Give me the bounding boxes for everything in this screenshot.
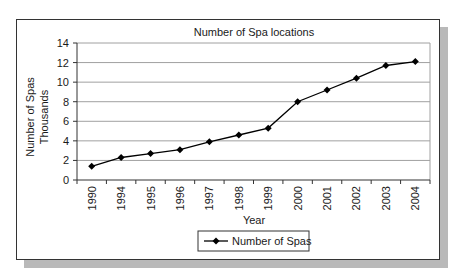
data-point-marker [235,131,242,138]
axes [77,43,430,180]
data-point-marker [324,86,331,93]
legend: Number of Spas [198,231,312,251]
data-point-marker [88,163,95,170]
data-point-marker [353,75,360,82]
chart-title: Number of Spa locations [194,26,315,38]
y-tick-label: 2 [63,154,69,166]
y-tick-label: 10 [57,76,69,88]
x-tick-label: 2003 [380,186,392,210]
y-axis-label-line-2: Thousands [38,89,50,144]
series-line [92,62,416,167]
data-point-marker [147,150,154,157]
x-tick-label: 1998 [233,186,245,210]
line-chart: Number of Spa locations Number of Spas T… [0,0,460,280]
x-tick-label: 1996 [174,186,186,210]
legend-label: Number of Spas [232,235,312,247]
x-tick-label: 1990 [86,186,98,210]
x-axis-label: Year [243,214,266,226]
y-axis-label-line-1: Number of Spas [24,77,36,157]
y-tick-label: 8 [63,96,69,108]
data-point-marker [206,138,213,145]
x-tick-label: 1995 [145,186,157,210]
y-axis-ticks: 02468101214 [57,37,77,186]
x-tick-label: 2000 [292,186,304,210]
y-tick-label: 12 [57,57,69,69]
data-series [88,58,419,170]
x-tick-label: 2004 [409,186,421,210]
data-point-marker [176,146,183,153]
y-tick-label: 0 [63,174,69,186]
gridlines [77,43,430,180]
y-tick-label: 6 [63,115,69,127]
data-point-marker [412,58,419,65]
y-axis-label: Number of Spas Thousands [24,77,50,157]
x-tick-label: 2002 [350,186,362,210]
x-tick-label: 1999 [262,186,274,210]
y-tick-label: 4 [63,135,69,147]
x-tick-label: 1994 [115,186,127,210]
x-axis-ticks: 1990199419951996199719981999200020012002… [77,180,430,210]
x-tick-label: 2001 [321,186,333,210]
y-tick-label: 14 [57,37,69,49]
x-tick-label: 1997 [203,186,215,210]
